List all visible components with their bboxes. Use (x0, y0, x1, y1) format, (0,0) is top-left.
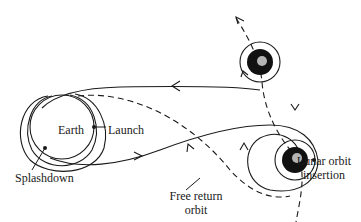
arrow-moonpath-icon (236, 17, 244, 24)
arrow-lunar-loop-icon (240, 143, 248, 150)
arrow-moon-descent-icon (291, 104, 299, 110)
splashdown-leader (32, 148, 45, 170)
free-return-label-2: orbit (156, 204, 236, 217)
arrow-free-return-icon (187, 144, 194, 152)
earth-label: Earth (58, 124, 84, 137)
lunar-insertion-label-2: insertion (286, 169, 361, 182)
launch-label: Launch (108, 124, 144, 137)
moon-path (236, 18, 302, 222)
moon-departure (247, 49, 273, 75)
orbit-diagram: Earth Launch Splashdown Free return orbi… (0, 0, 361, 222)
free-return-orbit (78, 95, 290, 197)
free-return-label-1: Free return (156, 190, 236, 203)
lunar-insertion-label-1: Lunar orbit (286, 155, 361, 168)
splashdown-label: Splashdown (15, 172, 74, 185)
arrow-outbound-icon (134, 152, 142, 160)
